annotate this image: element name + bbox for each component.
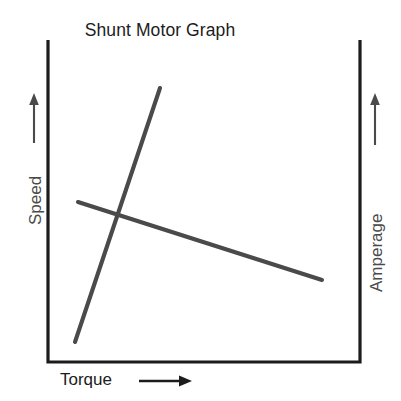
torque-right-arrow-icon — [139, 375, 192, 386]
amperage-up-arrow-icon — [370, 93, 380, 145]
speed-up-arrow-icon — [29, 93, 39, 143]
y2-axis-label-amperage: Amperage — [367, 214, 387, 292]
axis-frame — [48, 40, 360, 362]
x-axis-label-torque: Torque — [60, 370, 112, 390]
chart-canvas: Shunt Motor Graph Speed Amperage Torque — [0, 0, 401, 401]
series-line-amperage — [75, 88, 160, 342]
y-axis-label-speed: Speed — [26, 176, 46, 225]
chart-plot-area — [0, 0, 401, 401]
series-line-speed — [78, 202, 322, 280]
